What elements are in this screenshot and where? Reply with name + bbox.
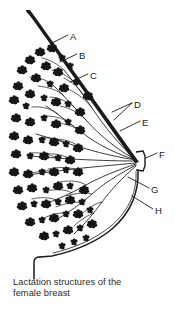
lobule-clusters	[9, 43, 98, 249]
leader-line-a	[50, 35, 68, 44]
figure-root: A B C D E F G H Lactation structures of …	[0, 0, 175, 313]
label-g: G	[151, 184, 158, 195]
caption-line-2: female breast	[13, 288, 165, 299]
leader-line-d	[112, 103, 132, 112]
label-b: B	[79, 50, 85, 61]
label-c: C	[90, 70, 97, 81]
breast-anatomy-diagram: A B C D E F G H	[0, 0, 175, 313]
figure-caption: Lactation structures of the female breas…	[13, 277, 165, 299]
label-f: F	[159, 149, 165, 160]
breast-outline	[34, 170, 138, 279]
label-h: H	[155, 205, 162, 216]
leader-line-e	[120, 121, 140, 131]
caption-line-1: Lactation structures of the	[13, 277, 165, 288]
label-a: A	[70, 31, 77, 42]
leader-line-f	[146, 153, 157, 158]
leader-line-h	[132, 196, 153, 209]
label-d: D	[134, 99, 141, 110]
label-e: E	[142, 117, 148, 128]
leader-line-d2	[114, 103, 132, 120]
